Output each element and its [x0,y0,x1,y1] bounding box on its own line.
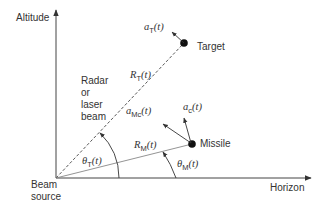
altitude-label: Altitude [16,12,50,23]
beam-riding-diagram: Altitude Horizon Beam source Radar or la… [0,0,330,214]
missile-accel-c-label: ac(t) [183,101,202,115]
beam-source-label-1: Beam [31,179,57,190]
missile-range-label: RM(t) [133,139,157,153]
missile-accel-mc-label: aMc(t) [126,105,152,119]
theta-m-arc [163,152,176,178]
beam-label-laser: laser [81,99,103,110]
target-accel-label: aT(t) [144,21,164,35]
theta-m-label: θM(t) [177,158,199,172]
beam-line [56,43,184,178]
target-accel-arrow [172,32,184,43]
missile-label: Missile [200,138,231,149]
target-label: Target [197,41,225,52]
beam-label-radar: Radar [81,75,109,86]
missile-range-line [56,144,192,178]
beam-label-beam: beam [81,111,106,122]
target-range-label: RT(t) [129,69,151,83]
theta-t-arc [100,133,119,178]
beam-label-or: or [81,87,91,98]
beam-source-label-2: source [31,191,61,202]
horizon-label: Horizon [270,182,304,193]
